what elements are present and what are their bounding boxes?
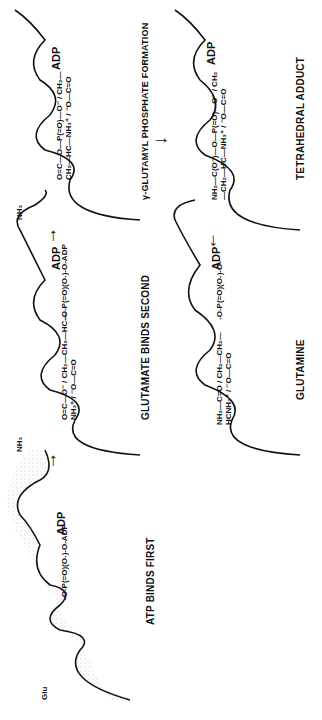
panel-3-adp: ADP: [50, 47, 62, 70]
panel-2-adp: ADP: [50, 247, 62, 270]
panel-4-ligand: NH₂—C(O⁻)—O—P(=O)—O⁻ / CH₂—CH₂—HC—NH₃⁺ /…: [210, 70, 228, 200]
arrow-1-to-2: →: [40, 452, 61, 470]
panel-5-glutamine: NH₂—C=O / CH₂—CH₂—HCNH₃⁺ / ⁻O—C=O: [215, 315, 233, 425]
panel-3-caption: γ-GLUTAMYL PHOSPHATE FORMATION: [140, 23, 150, 200]
arrow-2-to-3: →: [40, 227, 61, 245]
panel-1-ligand: -O-P(=O)(O-)-O-ADP: [60, 524, 69, 600]
diagram-canvas: Glu -O-P(=O)(O-)-O-ADP ADP ATP BINDS FIR…: [0, 0, 322, 720]
panel-2-glutamate: O=C—O⁻ / CH₂—CH₂—HC—NH₃⁺ / ⁻O—C=O: [60, 310, 78, 420]
panel-4-surface: [175, 10, 300, 230]
panel-2-nh3: NH₃: [15, 437, 24, 452]
panel-1-adp: ADP: [55, 512, 67, 535]
panel-2-surface: [17, 190, 140, 455]
glu-label: Glu: [40, 687, 49, 700]
arrow-3-to-4: ↓: [150, 136, 171, 145]
panel-4-caption: TETRAHEDRAL ADDUCT: [295, 57, 306, 180]
panel-3-surface: [15, 10, 140, 220]
panel-4-adp: ADP: [205, 42, 217, 65]
enzyme-surfaces: [0, 0, 322, 720]
panel-3-nh3: NH₃: [15, 205, 24, 220]
panel-1-caption: ATP BINDS FIRST: [145, 537, 156, 625]
panel-5-surface: [174, 200, 300, 455]
panel-3-ligand: O=C—O—P(=O)—O⁻ / CH₂—CH₂—HC—NH₃⁺ / ⁻O—C=…: [55, 70, 73, 180]
panel-5-caption: GLUTAMINE: [295, 340, 306, 401]
panel-2-caption: GLUTAMATE BINDS SECOND: [140, 275, 151, 420]
panel-5-adp: ADP: [210, 247, 222, 270]
